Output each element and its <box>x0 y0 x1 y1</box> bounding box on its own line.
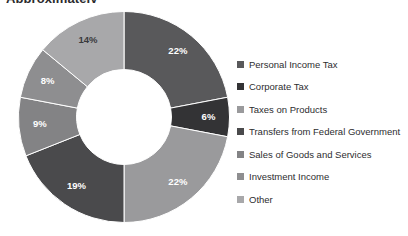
legend-item[interactable]: Investment Income <box>237 167 408 187</box>
legend-swatch-icon <box>237 61 244 68</box>
chart-title: Approximately <box>6 0 98 3</box>
legend-swatch-icon <box>237 196 244 203</box>
legend-item-label: Taxes on Products <box>249 104 327 115</box>
slice-percentage-label: 6% <box>202 111 216 122</box>
legend-item-label: Sales of Goods and Services <box>249 149 372 160</box>
slice-percentage-label: 19% <box>67 180 87 191</box>
legend-swatch-icon <box>237 83 244 90</box>
legend-swatch-icon <box>237 173 244 180</box>
legend-item[interactable]: Other <box>237 189 408 209</box>
legend-item-label: Transfers from Federal Government <box>249 126 400 137</box>
legend-item-label: Corporate Tax <box>249 81 309 92</box>
legend-item[interactable]: Personal Income Tax <box>237 54 408 74</box>
chart-legend: Personal Income TaxCorporate TaxTaxes on… <box>237 54 408 212</box>
legend-swatch-icon <box>237 106 244 113</box>
slice-percentage-label: 22% <box>168 176 188 187</box>
legend-item-label: Investment Income <box>249 171 329 182</box>
slice-percentage-label: 9% <box>33 118 47 129</box>
donut-slice[interactable] <box>124 126 228 223</box>
donut-chart-figure: Approximately 22%6%22%19%9%8%14% Persona… <box>0 0 408 236</box>
legend-item-label: Other <box>249 194 273 205</box>
donut-slice[interactable] <box>124 12 228 109</box>
legend-item[interactable]: Transfers from Federal Government <box>237 122 408 142</box>
donut-svg: 22%6%22%19%9%8%14% <box>18 11 230 223</box>
legend-swatch-icon <box>237 128 244 135</box>
legend-item-label: Personal Income Tax <box>249 59 338 70</box>
slice-percentage-label: 22% <box>168 45 188 56</box>
slice-percentage-label: 14% <box>79 34 99 45</box>
legend-item[interactable]: Corporate Tax <box>237 77 408 97</box>
legend-swatch-icon <box>237 151 244 158</box>
donut-plot-area: 22%6%22%19%9%8%14% <box>18 11 230 223</box>
legend-item[interactable]: Taxes on Products <box>237 99 408 119</box>
slice-percentage-label: 8% <box>41 75 55 86</box>
donut-slice-group <box>18 12 229 223</box>
legend-item[interactable]: Sales of Goods and Services <box>237 144 408 164</box>
